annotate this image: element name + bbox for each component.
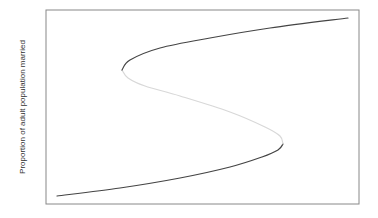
curve-upper-stable-branch [122,18,348,70]
chart-plot [0,0,378,218]
curve-series [57,18,348,196]
curve-lower-stable-branch [57,144,283,196]
curve-unstable-middle-branch [122,70,283,144]
